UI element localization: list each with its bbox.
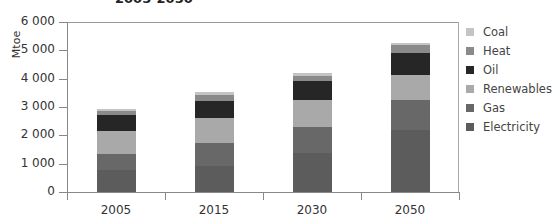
legend-swatch <box>466 104 474 112</box>
legend-label: Gas <box>483 101 505 115</box>
x-tick-label: 2005 <box>86 203 146 217</box>
legend-label: Oil <box>483 63 498 77</box>
bar-segment-electricity <box>97 170 136 192</box>
x-tick <box>263 192 264 200</box>
y-tick-label: 2 000 <box>5 127 55 141</box>
y-tick-label: 0 <box>5 184 55 198</box>
y-tick-label: 4 000 <box>5 71 55 85</box>
bar-2015 <box>195 92 234 192</box>
plot-top-border <box>67 22 459 23</box>
legend-swatch <box>466 28 474 36</box>
chart-title: 2005-2050 <box>115 0 193 6</box>
y-axis <box>67 22 68 193</box>
bar-segment-electricity <box>293 153 332 192</box>
bar-segment-gas <box>97 154 136 170</box>
legend-label: Renewables <box>483 82 552 96</box>
plot-right-border <box>458 22 459 192</box>
bar-segment-gas <box>391 100 430 130</box>
bar-2030 <box>293 73 332 192</box>
y-tick <box>59 192 67 193</box>
bar-segment-heat <box>391 45 430 53</box>
bar-2050 <box>391 43 430 192</box>
x-tick-label: 2030 <box>282 203 342 217</box>
bar-segment-oil <box>195 101 234 118</box>
bar-segment-gas <box>195 143 234 166</box>
legend: CoalHeatOilRenewablesGasElectricity <box>466 22 552 136</box>
bar-segment-renewables <box>195 118 234 143</box>
legend-swatch <box>466 47 474 55</box>
y-tick <box>59 164 67 165</box>
x-tick <box>459 192 460 200</box>
x-tick-label: 2015 <box>184 203 244 217</box>
legend-label: Electricity <box>483 120 540 134</box>
legend-swatch <box>466 123 474 131</box>
legend-item-renewables: Renewables <box>466 79 552 98</box>
y-tick <box>59 107 67 108</box>
bar-segment-renewables <box>391 75 430 100</box>
y-tick <box>59 22 67 23</box>
legend-label: Heat <box>483 44 510 58</box>
bar-segment-oil <box>97 115 136 131</box>
x-tick <box>361 192 362 200</box>
bar-segment-electricity <box>391 130 430 192</box>
y-tick <box>59 50 67 51</box>
x-tick <box>67 192 68 200</box>
legend-swatch <box>466 66 474 74</box>
legend-label: Coal <box>483 25 508 39</box>
legend-item-oil: Oil <box>466 60 552 79</box>
bar-2005 <box>97 109 136 192</box>
bar-segment-electricity <box>195 166 234 192</box>
bar-segment-gas <box>293 127 332 153</box>
y-tick <box>59 135 67 136</box>
legend-item-electricity: Electricity <box>466 117 552 136</box>
x-tick <box>165 192 166 200</box>
x-tick-label: 2050 <box>380 203 440 217</box>
y-tick-label: 3 000 <box>5 99 55 113</box>
y-tick-label: 6 000 <box>5 14 55 28</box>
legend-item-gas: Gas <box>466 98 552 117</box>
y-tick <box>59 79 67 80</box>
legend-item-heat: Heat <box>466 41 552 60</box>
legend-swatch <box>466 85 474 93</box>
y-tick-label: 1 000 <box>5 156 55 170</box>
legend-item-coal: Coal <box>466 22 552 41</box>
bar-segment-renewables <box>97 131 136 154</box>
bar-segment-renewables <box>293 100 332 127</box>
bar-segment-oil <box>293 81 332 100</box>
bar-segment-oil <box>391 53 430 75</box>
y-tick-label: 5 000 <box>5 42 55 56</box>
